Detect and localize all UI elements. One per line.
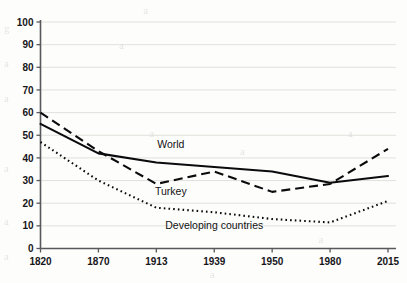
chart-canvas: 0102030405060708090100 18201870191319391… [0, 0, 407, 283]
y-axis-tick-label: 50 [22, 130, 34, 141]
y-axis-ticks-group: 0102030405060708090100 [17, 17, 41, 255]
x-axis-tick-label: 2015 [377, 256, 400, 267]
x-axis-tick-label: 1870 [87, 256, 110, 267]
series-line-turkey [41, 113, 389, 192]
series-line-world [41, 124, 389, 183]
y-axis-tick-label: 70 [22, 85, 34, 96]
line-chart-figure: a g a a [0, 0, 407, 283]
x-axis-tick-label: 1980 [319, 256, 342, 267]
series-annotations-group: WorldTurkeyDeveloping countries [155, 138, 263, 232]
y-axis-tick-label: 100 [17, 17, 34, 28]
x-axis-tick-label: 1820 [29, 256, 52, 267]
y-axis-tick-label: 10 [22, 220, 34, 231]
y-axis-tick-label: 90 [22, 39, 34, 50]
y-axis-tick-label: 80 [22, 62, 34, 73]
series-annotation-developing-countries: Developing countries [165, 219, 263, 231]
x-axis-tick-label: 1939 [203, 256, 226, 267]
series-annotation-world: World [157, 138, 184, 150]
series-annotation-turkey: Turkey [155, 185, 187, 197]
y-axis-tick-label: 0 [28, 243, 34, 254]
x-axis-tick-label: 1913 [145, 256, 168, 267]
y-axis-tick-label: 60 [22, 107, 34, 118]
series-paths-group [41, 113, 389, 223]
gridlines-group [41, 22, 397, 226]
x-axis-tick-label: 1950 [261, 256, 284, 267]
y-axis-tick-label: 40 [22, 153, 34, 164]
x-axis-ticks-group: 1820187019131939195019802015 [29, 249, 399, 267]
y-axis-tick-label: 30 [22, 175, 34, 186]
y-axis-tick-label: 20 [22, 198, 34, 209]
